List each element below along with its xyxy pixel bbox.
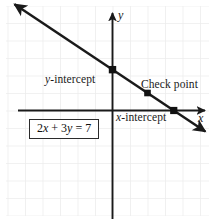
point-x-intercept [170, 107, 177, 114]
equation-equals: = [75, 121, 82, 135]
equation-box: 2x + 3y = 7 [29, 119, 99, 139]
point-check [144, 90, 151, 97]
point-y-intercept [109, 66, 116, 73]
label-x-intercept: x-intercept [116, 112, 166, 124]
axis-label-x: x [198, 112, 203, 124]
axis-label-y: y [118, 9, 123, 21]
equation-plus: + [51, 121, 58, 135]
equation-constant: 7 [85, 121, 91, 135]
coordinate-plane [0, 0, 215, 219]
equation-var-x: x [43, 121, 48, 135]
label-check-point: Check point [141, 79, 198, 91]
graph-figure: y x y-intercept x-intercept Check point … [0, 0, 215, 219]
label-y-intercept: y-intercept [45, 74, 95, 86]
equation-var-y: y [67, 121, 72, 135]
